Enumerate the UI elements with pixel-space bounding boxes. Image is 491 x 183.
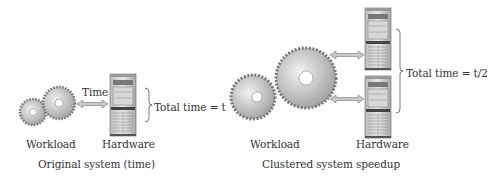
- hardware-label: Hardware: [356, 138, 409, 150]
- total-time-label: Total time = t: [154, 101, 226, 113]
- workload-label: Workload: [26, 138, 76, 150]
- brace-icon: [145, 88, 152, 122]
- server-icon: [110, 74, 136, 136]
- server-icon: [365, 76, 391, 138]
- double-arrow-icon: [77, 100, 108, 108]
- diagram-graphics: [0, 0, 491, 183]
- left-caption: Original system (time): [38, 158, 155, 170]
- server-icon: [365, 8, 391, 70]
- gear-large-icon: [276, 48, 336, 108]
- hardware-label: Hardware: [102, 138, 155, 150]
- gear-large-icon: [43, 87, 75, 119]
- brace-icon: [396, 29, 403, 113]
- total-time-label: Total time = t/2: [406, 67, 488, 79]
- double-arrow-icon: [330, 51, 364, 59]
- time-arrow-label: Time: [82, 86, 108, 98]
- workload-label: Workload: [250, 138, 300, 150]
- right-caption: Clustered system speedup: [262, 158, 400, 170]
- gear-small-icon: [20, 99, 46, 125]
- double-arrow-icon: [330, 95, 364, 103]
- gear-small-icon: [231, 75, 275, 119]
